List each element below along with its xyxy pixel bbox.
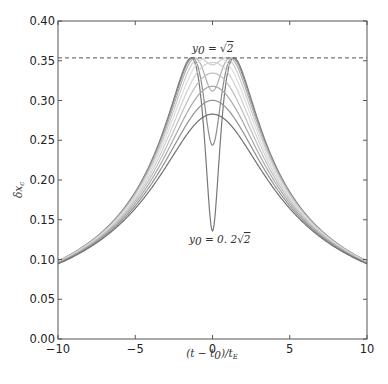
annotation-bottom: y0 = 0. 2√2 (188, 233, 251, 247)
y-axis-ticks: 0.000.050.100.150.200.250.300.350.40 (29, 14, 367, 346)
x-axis-ticks: −10−50510 (46, 21, 374, 356)
y-tick-label: 0.05 (29, 292, 55, 306)
y-tick-label: 0.30 (29, 94, 55, 108)
y-tick-label: 0.35 (29, 54, 55, 68)
x-tick-label: 5 (286, 342, 293, 356)
annotation-top: y0 = √2 (191, 42, 234, 56)
y-tick-label: 0.25 (29, 133, 55, 147)
x-axis-label: (t − t0)/tE (186, 347, 238, 361)
y-tick-label: 0.00 (29, 332, 55, 346)
x-tick-label: 10 (360, 342, 375, 356)
y-tick-label: 0.40 (29, 14, 55, 28)
x-tick-label: −5 (127, 342, 144, 356)
y-tick-label: 0.15 (29, 213, 55, 227)
y-axis-label: δxc (12, 182, 26, 198)
astrometric-shift-chart: −10−50510 0.000.050.100.150.200.250.300.… (0, 0, 388, 384)
y-tick-label: 0.20 (29, 173, 55, 187)
y-tick-label: 0.10 (29, 253, 55, 267)
axes-frame (58, 21, 367, 339)
